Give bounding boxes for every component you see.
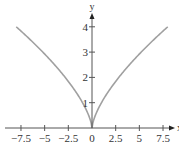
x-tick-label: 0 <box>89 132 95 144</box>
x-tick-label: 7.5 <box>156 132 170 144</box>
ticks: −7.5−5−2.502.557.51234 <box>11 21 170 144</box>
function-plot: xy −7.5−5−2.502.557.51234 <box>0 0 179 161</box>
y-tick-label: 4 <box>83 21 89 33</box>
axes: xy <box>5 1 179 133</box>
y-tick-label: 3 <box>83 46 89 58</box>
x-tick-label: −2.5 <box>58 132 78 144</box>
y-axis-arrow-icon <box>90 13 95 19</box>
x-tick-label: −7.5 <box>11 132 31 144</box>
x-tick-label: 5 <box>137 132 143 144</box>
y-tick-label: 2 <box>83 71 89 83</box>
y-tick-label: 1 <box>83 97 89 109</box>
x-axis-label: x <box>177 122 179 133</box>
y-axis-label: y <box>90 1 95 12</box>
x-axis-arrow-icon <box>169 126 175 131</box>
x-tick-label: 2.5 <box>109 132 123 144</box>
x-tick-label: −5 <box>39 132 51 144</box>
